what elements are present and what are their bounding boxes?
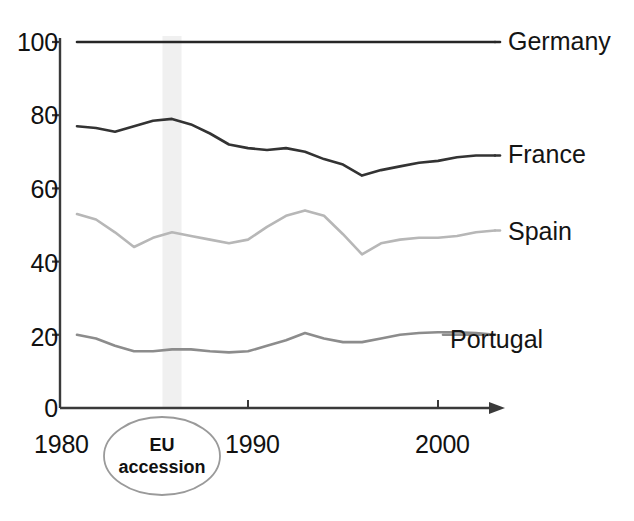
eu-accession-ellipse [104,417,220,495]
y-tick-100: 100 [0,30,58,55]
y-tick-60: 60 [0,177,58,202]
eu-accession-shading [163,36,182,408]
series-label-france: France [508,142,586,167]
chart-series [77,42,500,352]
series-label-germany: Germany [508,29,611,54]
y-tick-40: 40 [0,251,58,276]
x-tick-2000: 2000 [415,432,470,457]
chart-axes [52,38,505,414]
line-chart-canvas [0,0,634,521]
chart-container: 100 80 60 40 20 0 1980 1990 2000 Germany… [0,0,634,521]
y-tick-20: 20 [0,325,58,350]
y-tick-0: 0 [0,396,58,421]
y-tick-80: 80 [0,103,58,128]
x-tick-1980: 1980 [34,432,89,457]
series-label-spain: Spain [508,219,572,244]
eu-accession-line2: accession [100,457,224,478]
x-tick-1990: 1990 [225,432,280,457]
series-label-portugal: Portugal [450,327,543,352]
eu-accession-line1: EU [105,435,219,456]
